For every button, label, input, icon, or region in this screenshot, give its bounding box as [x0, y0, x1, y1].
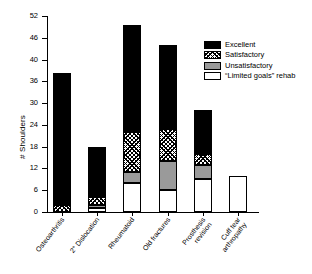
x-axis-tick [132, 212, 133, 216]
bar-segment-satisfactory [159, 129, 177, 162]
x-axis-tick-label: Osteoarthritis [34, 216, 66, 253]
bar-segment-limited [123, 183, 141, 212]
bar-segment-excellent [159, 45, 177, 128]
y-axis-tick-label: 6 [20, 186, 38, 194]
y-axis-tick [42, 168, 47, 169]
legend-label: “Limited goals” rehab [225, 72, 295, 80]
bar-segment-excellent [88, 147, 106, 198]
x-axis-tick [238, 212, 239, 216]
bar-segment-satisfactory [194, 154, 212, 165]
y-axis-tick [42, 16, 47, 17]
legend-item: Excellent [204, 40, 295, 49]
x-axis-line [47, 212, 259, 213]
legend-swatch-limited [204, 72, 221, 80]
y-axis-tick [42, 103, 47, 104]
bar-segment-satisfactory [123, 132, 141, 172]
y-axis-tick [42, 147, 47, 148]
x-axis-tick [203, 212, 204, 216]
y-axis-tick-label: 24 [20, 121, 38, 129]
bar-segment-unsatisfactory [88, 205, 106, 209]
y-axis-tick [42, 81, 47, 82]
bar [123, 16, 141, 212]
chart-figure: # Shoulders 061218243036404652 Osteoarth… [0, 0, 312, 274]
x-axis-tick-label: 2° Dislocation [69, 216, 101, 254]
legend-label: Unsatisfactory [225, 62, 273, 70]
bar-segment-excellent [53, 73, 71, 205]
bar-segment-unsatisfactory [194, 165, 212, 180]
x-axis-tick-label: Rheumatoid [107, 216, 136, 250]
y-axis-tick [42, 60, 47, 61]
bar-segment-limited [159, 190, 177, 212]
bar-segment-excellent [123, 25, 141, 132]
chart-legend: ExcellentSatisfactoryUnsatisfactory“Limi… [204, 40, 295, 82]
bar-segment-unsatisfactory [123, 172, 141, 183]
bar-segment-excellent [194, 110, 212, 154]
legend-swatch-excellent [204, 41, 221, 49]
y-axis-tick-label: 0 [20, 208, 38, 216]
x-axis-tick-label-line: Rheumatoid [107, 216, 136, 250]
bar-segment-limited [194, 179, 212, 212]
legend-swatch-satisfactory [204, 51, 221, 59]
x-axis-tick-label: Prosthesisrevision [181, 216, 213, 251]
x-axis-tick [97, 212, 98, 216]
legend-item: Satisfactory [204, 51, 295, 60]
bar-segment-unsatisfactory [159, 161, 177, 190]
y-axis-tick [42, 125, 47, 126]
x-axis-tick-label-line: 2° Dislocation [69, 216, 101, 254]
x-axis-tick [62, 212, 63, 216]
x-axis-tick-label-line: Osteoarthritis [34, 216, 66, 253]
x-axis-tick-label: Old fractures [141, 216, 172, 252]
bar-segment-satisfactory [88, 197, 106, 204]
x-axis-tick-label: Cuff teararthropathy [215, 216, 249, 253]
bar [88, 16, 106, 212]
y-axis-tick-label: 30 [20, 99, 38, 107]
legend-swatch-unsatisfactory [204, 62, 221, 70]
y-axis-tick-label: 46 [20, 34, 38, 42]
legend-item: Unsatisfactory [204, 61, 295, 70]
y-axis-tick-label: 36 [20, 77, 38, 85]
y-axis-tick-label: 40 [20, 56, 38, 64]
x-axis-tick [168, 212, 169, 216]
legend-label: Satisfactory [225, 51, 264, 59]
bar-segment-satisfactory [53, 205, 71, 212]
legend-label: Excellent [225, 41, 255, 49]
x-axis-tick-label-line: Old fractures [141, 216, 172, 252]
y-axis-tick-label: 52 [20, 12, 38, 20]
legend-item: “Limited goals” rehab [204, 72, 295, 81]
y-axis-tick [42, 212, 47, 213]
y-axis-tick [42, 190, 47, 191]
y-axis-tick [42, 38, 47, 39]
bar [53, 16, 71, 212]
y-axis-tick-label: 18 [20, 143, 38, 151]
bar-segment-limited [229, 176, 247, 212]
bar [159, 16, 177, 212]
y-axis-tick-label: 12 [20, 164, 38, 172]
